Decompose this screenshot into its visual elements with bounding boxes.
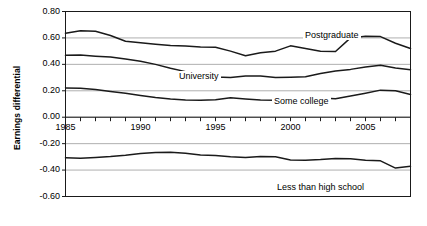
x-axis-tick-label: 2005 (346, 122, 386, 132)
series-line-some-college (66, 88, 411, 100)
series-label-less-than-high-school: Less than high school (275, 182, 366, 192)
y-axis-tick-label: -0.60 (22, 191, 60, 201)
y-axis-tick-label: -0.20 (22, 138, 60, 148)
line-chart-plot (0, 0, 427, 226)
series-label-some-college: Some college (272, 96, 331, 106)
series-label-postgraduate: Postgraduate (303, 30, 361, 40)
x-axis-tick-label: 1985 (46, 122, 86, 132)
x-axis-tick-label: 1990 (121, 122, 161, 132)
series-line-less-than-high-school (66, 152, 411, 168)
y-axis-tick-label: 0.00 (22, 111, 60, 121)
y-axis-tick-label: 0.20 (22, 85, 60, 95)
y-axis-tick-label: -0.40 (22, 164, 60, 174)
y-axis-tick-label: 0.40 (22, 58, 60, 68)
y-axis-tick-label: 0.80 (22, 6, 60, 16)
chart-container: Earnings differential 0.800.600.400.200.… (0, 0, 427, 226)
series-label-university: University (177, 71, 221, 81)
x-axis-tick-label: 1995 (196, 122, 236, 132)
x-axis-tick-label: 2000 (271, 122, 311, 132)
series-line-university (66, 55, 411, 77)
y-axis-tick-label: 0.60 (22, 32, 60, 42)
